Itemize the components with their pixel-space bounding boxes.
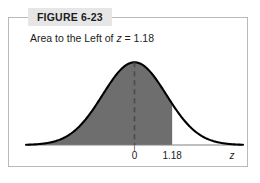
x-axis-variable-label: z	[230, 150, 235, 161]
figure-number-badge: FIGURE 6-23	[28, 8, 112, 26]
x-axis-tick-label-1-18: 1.18	[162, 150, 181, 161]
shaded-area-left-of-z	[26, 62, 172, 145]
x-axis-tick-label-0: 0	[132, 150, 138, 161]
caption-suffix-text: = 1.18	[122, 32, 154, 44]
figure-caption: Area to the Left of z = 1.18	[30, 32, 154, 44]
normal-distribution-chart	[0, 0, 260, 183]
figure-number-text: FIGURE 6-23	[37, 11, 103, 23]
caption-prefix-text: Area to the Left of	[30, 32, 116, 44]
